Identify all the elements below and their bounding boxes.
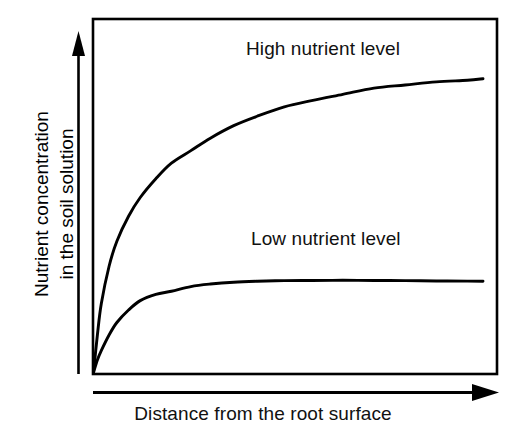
- y-axis-label-line-2: in the soil solution: [54, 24, 79, 384]
- curve-high-nutrient-level: [94, 79, 484, 373]
- x-axis-arrowhead: [472, 384, 499, 401]
- curve-low-nutrient-level: [94, 280, 484, 372]
- series-label-high-nutrient-level: High nutrient level: [246, 38, 400, 60]
- plot-frame: [93, 19, 497, 374]
- y-axis-label-line-1: Nutrient concentration: [29, 24, 54, 384]
- y-axis-label: Nutrient concentration in the soil solut…: [29, 24, 81, 384]
- x-axis-label: Distance from the root surface: [0, 403, 526, 425]
- nutrient-concentration-figure: High nutrient level Low nutrient level D…: [0, 0, 526, 444]
- series-label-low-nutrient-level: Low nutrient level: [251, 228, 401, 250]
